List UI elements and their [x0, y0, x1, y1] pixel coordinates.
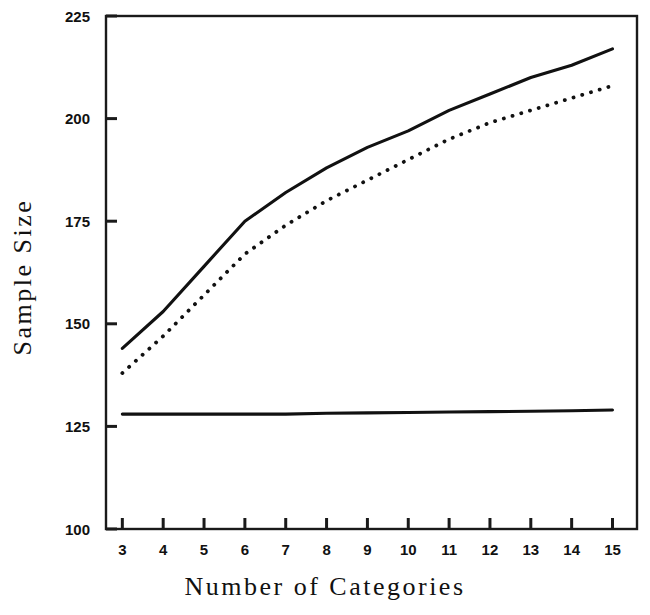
svg-text:4: 4: [159, 541, 168, 558]
series-middle-dotted-curve: [122, 86, 612, 373]
svg-text:11: 11: [441, 541, 457, 558]
svg-text:6: 6: [241, 541, 249, 558]
svg-text:13: 13: [522, 541, 539, 558]
svg-text:10: 10: [400, 541, 417, 558]
plot-area: 100125150175200225 3456789101112131415: [0, 0, 650, 615]
svg-text:15: 15: [604, 541, 621, 558]
x-axis-ticks: 3456789101112131415: [118, 518, 621, 558]
svg-text:14: 14: [563, 541, 580, 558]
y-axis-ticks: 100125150175200225: [65, 8, 117, 538]
svg-text:100: 100: [65, 521, 90, 538]
svg-text:12: 12: [482, 541, 499, 558]
axis-frame: [106, 16, 637, 529]
svg-text:200: 200: [65, 110, 90, 127]
svg-text:3: 3: [118, 541, 126, 558]
svg-text:225: 225: [65, 8, 90, 25]
svg-text:8: 8: [322, 541, 330, 558]
data-series-layer: [122, 49, 612, 414]
svg-text:7: 7: [282, 541, 290, 558]
svg-text:125: 125: [65, 418, 90, 435]
series-lower-flat-line: [122, 410, 612, 414]
chart-figure: Sample Size Number of Categories 1001251…: [0, 0, 650, 615]
svg-text:150: 150: [65, 315, 90, 332]
svg-text:175: 175: [65, 213, 90, 230]
svg-text:9: 9: [363, 541, 371, 558]
svg-text:5: 5: [200, 541, 208, 558]
